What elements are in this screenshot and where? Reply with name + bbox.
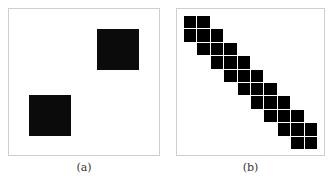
dark-square-2 <box>29 95 71 136</box>
grid-cell <box>278 96 290 108</box>
grid-cell <box>184 29 196 41</box>
grid-cell <box>291 110 303 122</box>
grid-cell <box>251 83 263 95</box>
grid-cell <box>278 123 290 135</box>
grid-cell <box>238 56 250 68</box>
grid-cell <box>278 110 290 122</box>
grid-cell <box>211 29 223 41</box>
grid-cell <box>264 110 276 122</box>
grid-cell <box>305 137 317 149</box>
grid-cell <box>305 123 317 135</box>
grid-cell <box>238 83 250 95</box>
grid-cell <box>251 70 263 82</box>
grid-cell <box>224 56 236 68</box>
grid-cell <box>224 70 236 82</box>
grid-cell <box>197 16 209 28</box>
grid-cell <box>211 56 223 68</box>
grid-cell <box>251 96 263 108</box>
caption-a: (a) <box>64 161 104 174</box>
grid-cell <box>264 96 276 108</box>
grid-cell <box>197 43 209 55</box>
grid-cell <box>184 16 196 28</box>
grid-cell <box>224 43 236 55</box>
dark-square-1 <box>97 29 139 70</box>
grid-cell <box>197 29 209 41</box>
grid-cell <box>291 123 303 135</box>
grid-cell <box>238 70 250 82</box>
grid-cell <box>264 83 276 95</box>
grid-cell <box>291 137 303 149</box>
grid-cell <box>211 43 223 55</box>
caption-b: (b) <box>231 161 271 174</box>
